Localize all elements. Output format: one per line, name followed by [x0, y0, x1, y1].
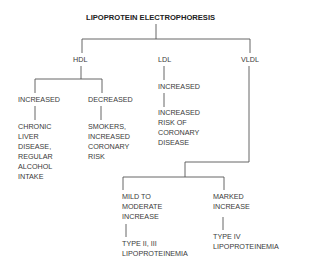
node-vldl-mild: MILD TO MODERATE INCREASE [122, 192, 162, 222]
node-ldl-increased-result: INCREASED RISK OF CORONARY DISEASE [158, 108, 200, 148]
node-vldl-marked: MARKED INCREASE [213, 192, 250, 212]
diagram-title: LIPOPROTEIN ELECTROPHORESIS [86, 13, 215, 23]
node-hdl: HDL [73, 55, 87, 65]
node-vldl: VLDL [241, 55, 259, 65]
node-vldl-mild-result: TYPE II, III LIPOPROTEINEMIA [122, 239, 188, 259]
node-vldl-marked-result: TYPE IV LIPOPROTEINEMIA [213, 232, 279, 252]
node-ldl: LDL [158, 55, 171, 65]
node-hdl-decreased-result: SMOKERS, INCREASED CORONARY RISK [88, 122, 130, 162]
node-hdl-increased-result: CHRONIC LIVER DISEASE, REGULAR ALCOHOL I… [18, 122, 53, 182]
node-ldl-increased: INCREASED [158, 82, 200, 92]
node-hdl-increased: INCREASED [18, 95, 60, 105]
node-hdl-decreased: DECREASED [88, 95, 133, 105]
lipoprotein-flowchart: LIPOPROTEIN ELECTROPHORESIS HDL LDL VLDL… [0, 0, 309, 269]
